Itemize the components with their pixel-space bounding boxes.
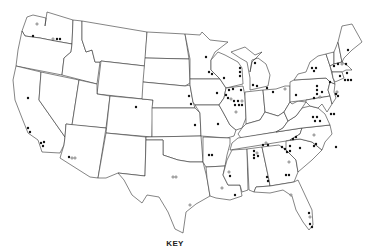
filled-dot-marker	[254, 62, 256, 64]
open-dot-marker	[74, 157, 76, 159]
filled-dot-marker	[292, 138, 294, 140]
filled-dot-marker	[257, 155, 259, 157]
filled-dot-marker	[347, 79, 349, 81]
filled-dot-marker	[330, 113, 332, 115]
filled-dot-marker	[319, 120, 321, 122]
filled-dot-marker	[345, 63, 347, 65]
filled-dot-marker	[284, 148, 286, 150]
filled-dot-marker	[295, 94, 297, 96]
filled-dot-marker	[239, 67, 241, 69]
filled-dot-marker	[227, 97, 229, 99]
filled-dot-marker	[232, 88, 234, 90]
filled-dot-marker	[252, 84, 254, 86]
filled-dot-marker	[239, 75, 241, 77]
filled-dot-marker	[208, 71, 210, 73]
filled-dot-marker	[335, 146, 337, 148]
filled-dot-marker	[266, 176, 268, 178]
open-dot-marker	[172, 176, 174, 178]
filled-dot-marker	[313, 145, 315, 147]
filled-dot-marker	[333, 65, 335, 67]
filled-dot-marker	[309, 223, 311, 225]
filled-dot-marker	[337, 63, 339, 65]
filled-dot-marker	[211, 73, 213, 75]
us-map	[0, 0, 373, 252]
state-iowa	[190, 79, 226, 105]
filled-dot-marker	[266, 87, 268, 89]
state-arkansas	[203, 137, 230, 167]
filled-dot-marker	[281, 146, 283, 148]
filled-dot-marker	[233, 100, 235, 102]
filled-dot-marker	[239, 71, 241, 73]
filled-dot-marker	[289, 150, 291, 152]
filled-dot-marker	[316, 89, 318, 91]
filled-dot-marker	[253, 154, 255, 156]
filled-dot-marker	[346, 72, 348, 74]
filled-dot-marker	[295, 136, 297, 138]
open-dot-marker	[319, 96, 321, 98]
state-colorado	[106, 96, 153, 137]
filled-dot-marker	[29, 131, 31, 133]
filled-dot-marker	[344, 79, 346, 81]
filled-dot-marker	[223, 77, 225, 79]
filled-dot-marker	[339, 75, 341, 77]
open-dot-marker	[288, 161, 290, 163]
open-dot-marker	[175, 176, 177, 178]
filled-dot-marker	[27, 97, 29, 99]
open-dot-marker	[71, 157, 73, 159]
open-dot-marker	[241, 100, 243, 102]
filled-dot-marker	[40, 142, 42, 144]
filled-dot-marker	[272, 91, 274, 93]
filled-dot-marker	[194, 124, 196, 126]
filled-dot-marker	[333, 113, 335, 115]
filled-dot-marker	[241, 104, 243, 106]
filled-dot-marker	[329, 81, 331, 83]
open-dot-marker	[265, 142, 267, 144]
filled-dot-marker	[313, 70, 315, 72]
filled-dot-marker	[267, 180, 269, 182]
filled-dot-marker	[316, 93, 318, 95]
filled-dot-marker	[188, 95, 190, 97]
open-dot-marker	[235, 111, 237, 113]
open-dot-marker	[52, 38, 54, 40]
filled-dot-marker	[308, 212, 310, 214]
state-south-dakota	[143, 58, 190, 86]
filled-dot-marker	[205, 56, 207, 58]
filled-dot-marker	[350, 79, 352, 81]
filled-dot-marker	[135, 106, 137, 108]
open-dot-marker	[309, 216, 311, 218]
state-kansas	[152, 108, 201, 137]
filled-dot-marker	[286, 151, 288, 153]
state-maine	[338, 24, 362, 62]
filled-dot-marker	[288, 174, 290, 176]
filled-dot-marker	[27, 127, 29, 129]
filled-dot-marker	[42, 145, 44, 147]
filled-dot-marker	[315, 143, 317, 145]
filled-dot-marker	[238, 104, 240, 106]
filled-dot-marker	[237, 100, 239, 102]
filled-dot-marker	[253, 157, 255, 159]
filled-dot-marker	[267, 144, 269, 146]
key-label: KEY	[161, 239, 189, 248]
state-florida	[254, 180, 313, 230]
filled-dot-marker	[253, 150, 255, 152]
filled-dot-marker	[347, 49, 349, 51]
open-dot-marker	[228, 171, 230, 173]
filled-dot-marker	[337, 95, 339, 97]
filled-dot-marker	[217, 123, 219, 125]
open-dot-marker	[189, 204, 191, 206]
filled-dot-marker	[285, 174, 287, 176]
filled-dot-marker	[234, 194, 236, 196]
open-dot-marker	[230, 98, 232, 100]
filled-dot-marker	[208, 154, 210, 156]
open-dot-marker	[313, 134, 315, 136]
filled-dot-marker	[289, 145, 291, 147]
state-new-mexico	[98, 133, 146, 178]
filled-dot-marker	[313, 97, 315, 99]
open-dot-marker	[336, 91, 338, 93]
filled-dot-marker	[311, 226, 313, 228]
open-dot-marker	[36, 23, 38, 25]
filled-dot-marker	[315, 67, 317, 69]
filled-dot-marker	[299, 147, 301, 149]
filled-dot-marker	[316, 116, 318, 118]
filled-dot-marker	[262, 144, 264, 146]
